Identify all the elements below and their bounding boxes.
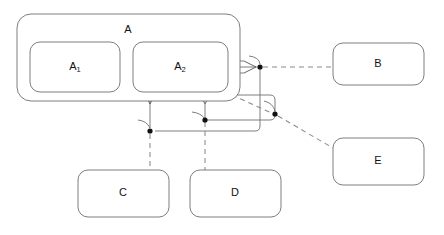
- connector-a2-to-b: [236, 56, 333, 73]
- node-a1-label-sub: 1: [77, 65, 81, 74]
- node-b-label: B: [374, 57, 381, 69]
- junction-dot-c: [147, 128, 152, 133]
- connector-a2-to-e-dashed-lower: [278, 116, 333, 148]
- junction-dot-d: [202, 117, 207, 122]
- node-c-label: C: [119, 186, 127, 198]
- junction-dot-e: [272, 111, 277, 116]
- node-a2[interactable]: A2: [133, 42, 228, 92]
- connector-a2-to-d-jump-arc: [192, 112, 205, 119]
- connector-a2-to-c-jump-arc: [138, 120, 150, 128]
- diagram-svg: A A1 A2 B C: [0, 0, 444, 235]
- node-b[interactable]: B: [333, 43, 424, 85]
- connector-a2-to-c: [138, 92, 156, 170]
- node-c[interactable]: C: [78, 170, 169, 217]
- node-e-label: E: [374, 154, 381, 166]
- node-a2-label-sub: 2: [182, 65, 186, 74]
- node-a1[interactable]: A1: [30, 42, 120, 92]
- node-e[interactable]: E: [333, 138, 424, 185]
- node-d[interactable]: D: [190, 170, 281, 217]
- junction-dot-b: [257, 64, 262, 69]
- connector-a2-to-e-dashed-upper: [232, 95, 278, 116]
- connector-a2-to-b-jump-arc: [249, 56, 260, 64]
- node-a-label: A: [124, 23, 132, 35]
- node-layer: A A1 A2 B C: [17, 14, 424, 217]
- diagram-canvas: A A1 A2 B C: [0, 0, 444, 235]
- connector-a2-to-e-jump-arc: [264, 101, 275, 111]
- node-d-label: D: [231, 186, 239, 198]
